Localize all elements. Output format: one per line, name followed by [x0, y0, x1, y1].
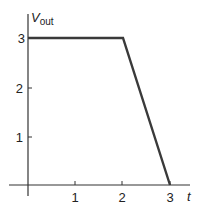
- y-tick-label-2: 2: [16, 81, 23, 96]
- vout-series-line: [28, 38, 170, 185]
- x-axis-label: t: [187, 189, 192, 204]
- x-tick-label-1: 1: [71, 190, 78, 205]
- y-tick-label-3: 3: [18, 31, 25, 46]
- y-axis-label-subscript: out: [40, 16, 54, 27]
- y-axis-label: Vout: [31, 10, 54, 27]
- y-tick-label-1: 1: [16, 130, 23, 145]
- x-tick-label-2: 2: [118, 190, 125, 205]
- vout-chart: 1 2 3 1 2 3 Vout t: [0, 0, 205, 208]
- x-tick-label-3: 3: [166, 190, 173, 205]
